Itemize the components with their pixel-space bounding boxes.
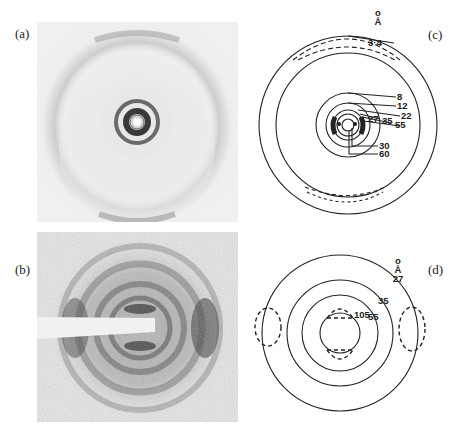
spacing-105: 105 [354, 309, 371, 320]
spacing-3-4: 3·4 [368, 37, 382, 48]
unit-label-c: Å [375, 16, 382, 27]
schematic-c [259, 36, 437, 214]
unit-ring-d: o [395, 255, 401, 266]
unit-ring: o [375, 7, 381, 18]
spacing-27: 27 [368, 113, 379, 124]
spacing-55: 55 [395, 119, 406, 130]
diffraction-photo-b [37, 232, 238, 422]
spacing-22: 22 [401, 110, 412, 121]
panel-label-a: (a) [15, 26, 29, 42]
panel-label-b: (b) [15, 262, 30, 278]
schematic-d [255, 255, 425, 411]
schematic-c-labels: o Å 3·4 8 12 22 27 35 55 30 60 [368, 7, 412, 159]
spacing-35: 35 [378, 295, 389, 306]
unit-label-d: Å [395, 264, 402, 275]
spacing-35: 35 [382, 115, 393, 126]
panel-label-c: (c) [428, 27, 442, 43]
spacing-27: 27 [393, 273, 404, 284]
schematic-d-labels: o Å 27 35 55 105 [354, 255, 403, 322]
panel-label-d: (d) [428, 262, 443, 278]
diffraction-photo-a [37, 22, 238, 222]
spacing-30: 30 [379, 140, 390, 151]
spacing-12: 12 [397, 100, 408, 111]
spacing-55: 55 [368, 311, 379, 322]
spacing-8: 8 [397, 91, 402, 102]
spacing-60: 60 [379, 148, 390, 159]
